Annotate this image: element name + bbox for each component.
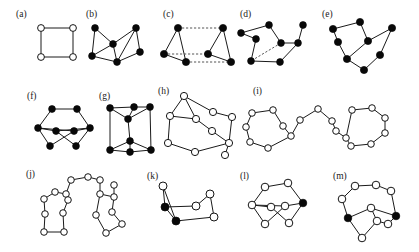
graph-node-open [284,179,292,187]
graph-edge [347,41,368,59]
graph-edge [268,136,291,148]
graph-node-open [297,117,304,124]
graph-node-filled [219,24,226,31]
panel-d-nodes [238,22,307,66]
graph-node-open [42,211,49,218]
graph-node-filled [376,51,383,58]
graph-node-open [192,115,199,122]
graph-node-filled [300,22,307,29]
graph-node-open [315,106,322,113]
graph-node-open [288,133,295,140]
panel-b [89,25,144,66]
panel-label-h: (h) [158,87,169,97]
graph-node-filled [238,30,245,37]
graph-node-open [343,135,350,142]
graph-edge [208,28,223,54]
graph-node-filled [266,22,273,29]
graph-node-filled [107,147,114,154]
graph-node-open [249,110,256,117]
graph-node-open [221,151,228,158]
graph-node-open [261,183,269,191]
graph-node-filled [356,18,363,25]
graph-node-filled [172,217,180,225]
graph-node-filled [334,38,341,45]
graph-node-open [265,145,272,152]
graph-node-filled [92,25,99,32]
graph-node-filled [137,49,144,56]
graph-node-filled [174,24,181,31]
graph-edge [117,28,136,62]
graph-node-filled [47,143,54,150]
graph-node-open [338,195,346,203]
panel-l [248,179,307,228]
graph-node-filled [392,212,400,220]
panel-d-edges [241,25,303,62]
graph-node-open [209,108,216,115]
graph-node-open [97,177,104,184]
graph-node-open [382,130,389,137]
panel-label-l: (l) [240,172,249,182]
graph-figure-svg [0,0,419,252]
figure-canvas: (a)(b)(c)(d)(e)(f)(g)(h)(i)(j)(k)(l)(m) [0,0,419,252]
graph-node-open [111,194,118,201]
graph-node-filled [131,104,138,111]
graph-node-filled [127,149,134,156]
graph-node-filled [364,37,371,44]
graph-node-open [210,213,218,221]
graph-edge [251,61,280,62]
panel-l-edges [252,183,303,224]
graph-node-open [70,54,77,61]
graph-edge [176,217,214,221]
panel-label-g: (g) [99,92,110,102]
graph-node-open [387,187,395,195]
graph-node-filled [343,55,350,62]
graph-node-filled [227,58,234,65]
graph-node-filled [125,116,132,123]
graph-node-open [261,220,269,228]
graph-node-filled [133,25,140,32]
graph-node-open [109,209,116,216]
panel-f-nodes [35,106,94,150]
graph-node-filled [278,40,285,47]
graph-node-open [191,148,198,155]
graph-edge [368,28,392,41]
panel-label-c: (c) [163,10,174,20]
graph-node-filled [87,125,94,132]
graph-node-open [166,112,173,119]
graph-node-filled [49,106,56,113]
graph-node-filled [127,138,134,145]
panel-d [238,22,307,66]
graph-edge [92,56,117,62]
panel-j [41,174,126,237]
graph-node-open [228,113,235,120]
graph-node-open [384,220,392,228]
graph-node-filled [329,25,336,32]
graph-edge [223,28,231,62]
graph-node-open [281,202,289,210]
graph-edge [117,52,140,62]
graph-node-open [93,212,100,219]
graph-edge [241,25,269,33]
graph-node-open [41,229,48,236]
graph-node-open [97,191,104,198]
graph-edge [164,28,178,54]
panel-a-edges [41,28,73,57]
panel-a [38,25,77,61]
graph-node-open [329,118,336,125]
panel-g [107,104,155,156]
graph-node-filled [35,125,42,132]
panel-m-nodes [338,181,400,242]
panel-label-e: (e) [322,10,333,20]
graph-node-open [333,128,340,135]
graph-node-open [248,201,256,209]
panel-i [243,105,389,152]
graph-node-filled [148,147,155,154]
graph-edge [333,22,360,29]
graph-node-open [164,139,171,146]
graph-node-filled [160,50,167,57]
graph-node-open [243,124,250,131]
graph-node-open [348,143,355,150]
graph-node-open [38,25,45,32]
panel-label-d: (d) [240,10,251,20]
graph-node-open [358,234,366,242]
